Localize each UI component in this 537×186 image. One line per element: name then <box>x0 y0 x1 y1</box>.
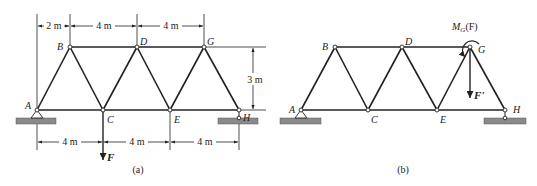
truss-members-a <box>37 47 239 110</box>
node-a-b <box>299 108 303 112</box>
dim-label-top-3: 4 m <box>163 20 179 31</box>
node-g <box>202 45 206 49</box>
node-label-a-b: A <box>288 104 296 115</box>
node-label-h: H <box>242 112 251 123</box>
node-d-b <box>400 45 404 49</box>
node-label-e: E <box>173 114 180 125</box>
member-ab <box>37 47 70 110</box>
node-h <box>237 108 241 112</box>
member-bc <box>70 47 103 110</box>
node-e-b <box>435 108 439 112</box>
figure-b: MG(F) F' A B C D E G H (b) <box>280 21 526 176</box>
node-label-c-b: C <box>371 114 378 125</box>
dim-label-bottom-1: 4 m <box>62 136 78 147</box>
roller-pin-h <box>237 116 241 120</box>
member-eg <box>170 47 204 110</box>
node-g-b <box>468 45 472 49</box>
dim-label-top-1: 2 m <box>46 20 62 31</box>
node-label-g-b: G <box>478 44 485 55</box>
member-ab-b <box>301 47 335 110</box>
member-de-b <box>402 47 437 110</box>
member-de <box>137 47 170 110</box>
node-b-b <box>333 45 337 49</box>
node-label-b: B <box>57 41 63 52</box>
force-label-f-prime: F' <box>473 89 484 101</box>
member-cd <box>103 47 137 110</box>
node-c <box>101 108 105 112</box>
node-label-d-b: D <box>404 36 413 47</box>
node-label-e-b: E <box>439 114 446 125</box>
ground-a-b <box>280 118 321 124</box>
member-bc-b <box>335 47 368 110</box>
dim-label-bottom-3: 4 m <box>197 136 213 147</box>
node-label-g: G <box>207 36 214 47</box>
node-h-b <box>503 108 507 112</box>
node-label-a: A <box>24 100 32 111</box>
node-label-h-b: H <box>512 104 521 115</box>
node-b <box>68 45 72 49</box>
moment-label: MG(F) <box>451 21 478 34</box>
ground-a <box>16 118 56 124</box>
roller-pin-h-b <box>503 116 507 120</box>
member-cd-b <box>368 47 402 110</box>
caption-a: (a) <box>132 164 143 176</box>
node-d <box>135 45 139 49</box>
caption-b: (b) <box>397 164 409 176</box>
force-label-f: F <box>106 151 115 163</box>
node-label-b-b: B <box>322 41 328 52</box>
member-gh <box>204 47 239 110</box>
dim-label-top-2: 4 m <box>96 20 112 31</box>
truss-figure: 2 m 4 m 4 m 3 m 4 m 4 m 4 m <box>0 0 537 186</box>
dim-label-height: 3 m <box>247 74 263 85</box>
node-c-b <box>366 108 370 112</box>
node-label-d: D <box>139 36 148 47</box>
node-a <box>35 108 39 112</box>
figure-a: 2 m 4 m 4 m 3 m 4 m 4 m 4 m <box>16 14 266 176</box>
node-label-c: C <box>107 114 114 125</box>
dim-label-bottom-2: 4 m <box>129 136 145 147</box>
node-e <box>168 108 172 112</box>
